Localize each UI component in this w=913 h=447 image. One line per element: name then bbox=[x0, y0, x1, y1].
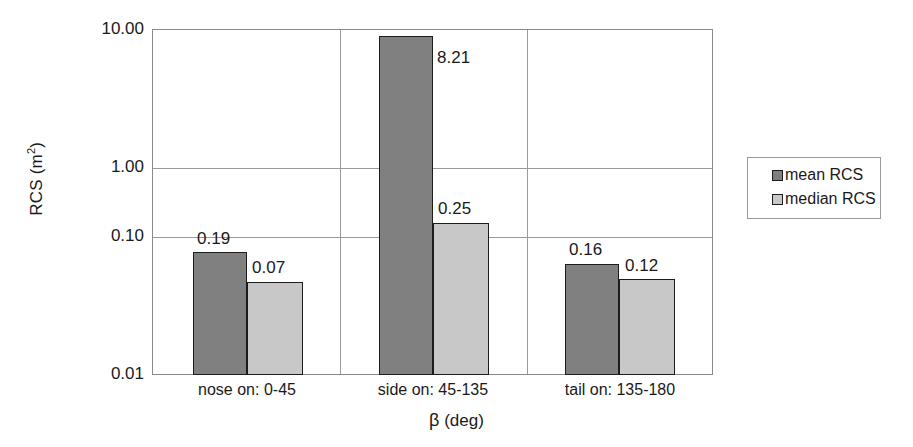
bar-median-tail-on[interactable] bbox=[619, 279, 675, 375]
bar-label-mean-side-on: 8.21 bbox=[437, 48, 470, 68]
bar-label-mean-nose-on: 0.19 bbox=[197, 229, 230, 249]
y-tick-label-1: 1.00 bbox=[70, 157, 144, 177]
x-axis-title-symbol: β bbox=[429, 410, 439, 430]
legend-swatch-median-icon bbox=[772, 194, 783, 205]
y-axis-title: RCS (m2) bbox=[25, 99, 47, 259]
x-axis-title: β (deg) bbox=[0, 410, 913, 431]
category-separator-1 bbox=[340, 30, 341, 374]
category-separator-2 bbox=[527, 30, 528, 374]
bar-mean-tail-on[interactable] bbox=[565, 264, 619, 375]
bar-median-side-on[interactable] bbox=[433, 223, 489, 375]
legend: mean RCS median RCS bbox=[747, 157, 881, 219]
legend-label-median-rcs: median RCS bbox=[785, 191, 876, 207]
bar-mean-side-on[interactable] bbox=[379, 36, 433, 375]
x-axis-title-unit: (deg) bbox=[439, 411, 483, 430]
bar-label-median-side-on: 0.25 bbox=[438, 199, 471, 219]
y-axis-title-exponent: 2 bbox=[25, 148, 37, 154]
y-axis-title-base: RCS (m bbox=[27, 154, 46, 216]
plot-area: 0.19 0.07 8.21 0.25 0.16 0.12 bbox=[152, 29, 713, 375]
legend-label-mean-rcs: mean RCS bbox=[785, 167, 863, 183]
rcs-bar-chart: RCS (m2) 10.00 1.00 0.10 0.01 0.19 0.07 … bbox=[0, 0, 913, 447]
bar-label-median-tail-on: 0.12 bbox=[625, 256, 658, 276]
x-tick-label-side-on: side on: 45-135 bbox=[378, 381, 488, 399]
y-axis-title-tail: ) bbox=[27, 142, 46, 148]
x-tick-label-tail-on: tail on: 135-180 bbox=[565, 381, 675, 399]
bar-median-nose-on[interactable] bbox=[247, 282, 303, 375]
y-tick-label-10: 10.00 bbox=[70, 19, 144, 39]
y-tick-label-0.01: 0.01 bbox=[70, 364, 144, 384]
y-tick-label-0.10: 0.10 bbox=[70, 226, 144, 246]
y-axis-tick-labels: 10.00 1.00 0.10 0.01 bbox=[68, 29, 144, 375]
bar-mean-nose-on[interactable] bbox=[193, 252, 247, 375]
bar-label-median-nose-on: 0.07 bbox=[252, 258, 285, 278]
legend-swatch-mean-icon bbox=[772, 170, 783, 181]
x-tick-label-nose-on: nose on: 0-45 bbox=[198, 381, 296, 399]
legend-item-median-rcs[interactable]: median RCS bbox=[772, 191, 876, 207]
legend-item-mean-rcs[interactable]: mean RCS bbox=[772, 167, 863, 183]
bar-label-mean-tail-on: 0.16 bbox=[569, 240, 602, 260]
